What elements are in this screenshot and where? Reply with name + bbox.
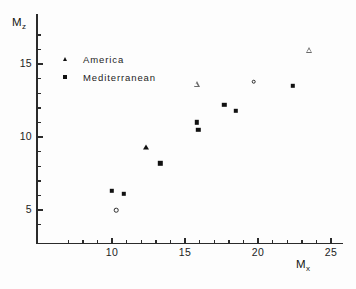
legend-label: America	[83, 54, 124, 65]
x-tick-label-20: 20	[245, 246, 271, 258]
y-tick-15	[38, 63, 43, 64]
x-tick-minor-18	[228, 240, 229, 243]
data-point-filled-square	[234, 109, 238, 113]
x-tick-20	[257, 238, 258, 243]
y-tick-10	[38, 136, 43, 137]
y-tick-minor-17	[38, 34, 41, 35]
data-point-filled-square	[158, 161, 162, 165]
legend-label: Mediterranean	[83, 72, 156, 83]
data-point-filled-square	[121, 192, 125, 196]
y-tick-minor-16	[38, 49, 41, 50]
y-tick-minor-11	[38, 122, 41, 123]
x-tick-10	[111, 238, 112, 243]
x-tick-minor-17	[214, 240, 215, 243]
x-tick-minor-22	[287, 240, 288, 243]
y-tick-minor-14	[38, 78, 41, 79]
x-axis-title-sub: x	[306, 264, 310, 273]
x-tick-minor-16	[199, 240, 200, 243]
legend: AmericaMediterranean	[58, 50, 156, 86]
y-tick-label-15: 15	[10, 57, 32, 69]
x-tick-label-25: 25	[318, 246, 344, 258]
y-axis-title-sub: z	[22, 22, 26, 31]
data-point-open-circle	[251, 79, 256, 84]
x-tick-minor-24	[316, 240, 317, 243]
legend-marker-filled-triangle-icon	[58, 57, 72, 61]
x-tick-minor-13	[155, 240, 156, 243]
y-tick-minor-8	[38, 166, 41, 167]
data-point-filled-square	[196, 127, 200, 131]
y-tick-minor-13	[38, 93, 41, 94]
x-tick-minor-9	[97, 240, 98, 243]
x-tick-25	[330, 238, 331, 243]
y-tick-minor-7	[38, 180, 41, 181]
y-axis-title-main: M	[12, 16, 22, 28]
legend-item-mediterranean[interactable]: Mediterranean	[58, 68, 156, 86]
x-tick-minor-7	[68, 240, 69, 243]
x-tick-minor-14	[170, 240, 171, 243]
scatter-plot-figure: Mz Mx 5101510152025 AmericaMediterranean	[0, 0, 356, 289]
x-tick-minor-19	[243, 240, 244, 243]
data-point-open-triangle	[194, 81, 200, 87]
x-tick-minor-8	[82, 240, 83, 243]
x-tick-label-10: 10	[99, 246, 125, 258]
filled-square-glyph	[63, 75, 67, 79]
x-tick-label-15: 15	[172, 246, 198, 258]
y-tick-5	[38, 209, 43, 210]
x-axis-title-main: M	[296, 258, 306, 270]
x-tick-minor-23	[301, 240, 302, 243]
data-point-open-triangle	[306, 47, 312, 53]
y-tick-minor-4	[38, 224, 41, 225]
x-tick-minor-12	[141, 240, 142, 243]
data-point-filled-triangle	[143, 145, 149, 150]
data-point-filled-square	[110, 189, 114, 193]
x-tick-minor-21	[272, 240, 273, 243]
x-tick-minor-11	[126, 240, 127, 243]
y-axis-title: Mz	[12, 16, 26, 31]
data-point-open-circle	[114, 208, 119, 213]
data-points-layer	[0, 0, 356, 12]
legend-item-america[interactable]: America	[58, 50, 156, 68]
y-tick-minor-12	[38, 107, 41, 108]
y-tick-label-5: 5	[10, 203, 32, 215]
x-axis-title: Mx	[296, 258, 310, 273]
filled-triangle-glyph	[63, 57, 67, 61]
x-axis-line	[36, 243, 343, 245]
y-tick-label-10: 10	[10, 130, 32, 142]
x-tick-15	[184, 238, 185, 243]
y-tick-minor-9	[38, 151, 41, 152]
data-point-filled-square	[194, 120, 198, 124]
data-point-filled-square	[222, 103, 226, 107]
y-tick-minor-6	[38, 195, 41, 196]
data-point-filled-square	[291, 84, 295, 88]
legend-marker-filled-square-icon	[58, 75, 72, 79]
